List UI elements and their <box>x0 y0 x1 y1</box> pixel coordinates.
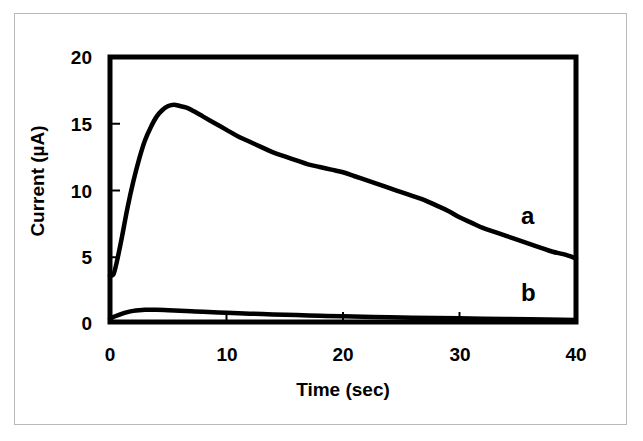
x-axis-title: Time (sec) <box>243 379 443 401</box>
x-tick-label-40: 40 <box>551 345 601 364</box>
figure-root: 20 15 10 5 0 0 10 20 30 40 Current (µA) … <box>0 0 643 441</box>
y-tick-label-5: 5 <box>46 248 92 267</box>
y-tick-label-0: 0 <box>46 314 92 333</box>
y-tick-label-20: 20 <box>46 48 92 67</box>
chart-plot-area: 20 15 10 5 0 0 10 20 30 40 Current (µA) … <box>0 0 643 441</box>
series-a-curve <box>110 105 576 276</box>
series-b-label: b <box>521 281 536 305</box>
x-tick-label-20: 20 <box>318 345 368 364</box>
y-tick-label-15: 15 <box>46 115 92 134</box>
series-b-curve <box>110 310 576 320</box>
y-axis-title: Current (µA) <box>27 81 49 281</box>
chart-canvas <box>0 0 643 441</box>
series-a-label: a <box>521 204 534 228</box>
plot-frame <box>110 57 576 322</box>
x-tick-label-10: 10 <box>202 345 252 364</box>
x-tick-label-0: 0 <box>85 345 135 364</box>
x-tick-label-30: 30 <box>435 345 485 364</box>
y-tick-label-10: 10 <box>46 182 92 201</box>
